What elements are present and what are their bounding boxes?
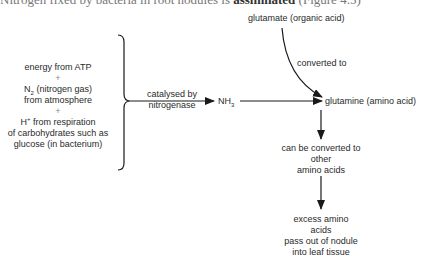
catalyst-label: catalysed by nitrogenase	[138, 89, 206, 111]
nitrogenase: nitrogenase	[138, 100, 206, 111]
glutamine-label: glutamine (amino acid)	[325, 96, 416, 107]
inputs-block: energy from ATP + N2 (nitrogen gas) from…	[0, 62, 116, 150]
nh3-subscript: 3	[231, 102, 234, 108]
excess-line-1: excess amino	[271, 214, 371, 225]
other-amino-line-1: can be converted to	[271, 143, 371, 154]
n2-label: (nitrogen gas)	[34, 84, 92, 94]
other-amino-acids-label: can be converted to other amino acids	[271, 143, 371, 176]
excess-line-3: pass out of nodule	[271, 236, 371, 247]
excess-line-4: into leaf tissue	[271, 247, 371, 258]
nitrogen-gas: N2 (nitrogen gas)	[0, 84, 116, 95]
converted-to-label: converted to	[297, 58, 347, 69]
other-amino-line-3: amino acids	[271, 165, 371, 176]
excess-amino-acids-label: excess amino acids pass out of nodule in…	[271, 214, 371, 258]
glucose-line: glucose (in bacterium)	[0, 139, 116, 150]
excess-line-2: acids	[271, 225, 371, 236]
glutamate-label: glutamate (organic acid)	[248, 13, 345, 24]
nh-symbol: NH	[218, 96, 231, 106]
respiration-line: of carbohydrates such as	[0, 128, 116, 139]
hydrogen-ion: H+ from respiration	[0, 117, 116, 128]
energy-from-atp: energy from ATP	[0, 62, 116, 73]
ammonia-label: NH3	[218, 96, 234, 107]
catalysed-by: catalysed by	[138, 89, 206, 100]
from-atmosphere: from atmosphere	[0, 95, 116, 106]
other-amino-line-2: other	[271, 154, 371, 165]
plus-sign: +	[0, 73, 116, 84]
curly-brace	[118, 35, 130, 170]
plus-sign: +	[0, 106, 116, 117]
h-label: from respiration	[30, 117, 95, 127]
